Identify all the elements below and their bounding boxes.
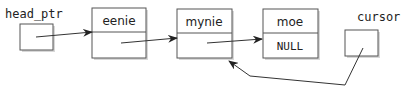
head-ptr-label: head_ptr <box>5 7 63 21</box>
node-link-null: NULL <box>277 40 304 53</box>
node-moe: moe NULL <box>263 9 318 58</box>
node-data-moe: moe <box>277 15 303 29</box>
node-data-eenie: eenie <box>102 14 135 28</box>
node-data-mynie: mynie <box>185 15 222 29</box>
node-mynie: mynie <box>177 9 232 58</box>
linked-list-diagram: head_ptr eenie mynie moe NULL cursor <box>0 0 409 87</box>
node-eenie: eenie <box>92 8 146 58</box>
cursor-label: cursor <box>357 10 400 24</box>
